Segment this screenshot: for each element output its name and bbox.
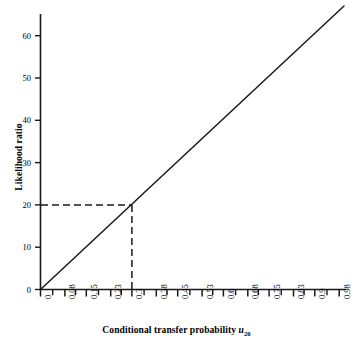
x-tick-label: 0.6 xyxy=(227,288,236,299)
x-tick-label: 0.08 xyxy=(68,284,77,299)
y-axis-title: Likelihood ratio xyxy=(14,92,24,222)
x-tick-label: 0.23 xyxy=(114,284,123,299)
x-tick-label: 0.3 xyxy=(135,288,144,299)
data-series-line xyxy=(41,6,345,290)
x-axis-title: Conditional transfer probability u20 xyxy=(0,325,353,337)
x-tick-label: 0.83 xyxy=(297,284,306,299)
y-tick-label: 60 xyxy=(9,31,31,40)
y-tick-label: 10 xyxy=(9,243,31,252)
x-tick-label: 0 xyxy=(44,295,53,299)
x-axis-variable-subscript: 20 xyxy=(244,330,251,337)
x-axis-title-variable: u20 xyxy=(236,325,251,335)
x-tick-label: 0.75 xyxy=(273,284,282,299)
x-tick-label: 0.98 xyxy=(343,284,352,299)
y-tick-label: 50 xyxy=(9,74,31,83)
y-tick-label: 0 xyxy=(9,285,31,294)
x-tick-label: 0.15 xyxy=(90,284,99,299)
x-tick-label: 0.38 xyxy=(160,284,169,299)
x-tick-label: 0.45 xyxy=(181,284,190,299)
x-axis-title-text: Conditional transfer probability xyxy=(102,325,236,335)
x-tick-label: 0.9 xyxy=(318,288,327,299)
chart-container: 0 10 20 30 40 50 60 0 0.08 0.15 0.23 0.3… xyxy=(0,0,353,342)
y-axis-ticks xyxy=(35,36,41,290)
x-tick-label: 0.68 xyxy=(251,284,260,299)
x-tick-label: 0.53 xyxy=(206,284,215,299)
